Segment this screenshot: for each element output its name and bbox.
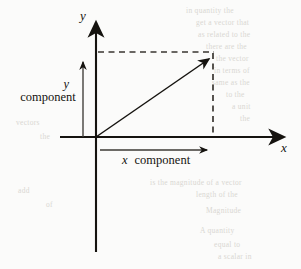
y-component-label: y component	[8, 78, 88, 104]
x-component-label-variable: x	[122, 153, 128, 167]
diagram-canvas	[0, 0, 301, 269]
resultant-vector-arrow	[96, 59, 209, 137]
x-component-label-word: component	[135, 153, 191, 167]
y-axis-label: y	[80, 9, 86, 23]
x-axis-label: x	[281, 141, 287, 155]
x-component-label: x component	[96, 154, 216, 167]
vector-components-figure: in quantity theget a vector thatas relat…	[0, 0, 301, 269]
y-component-label-word: component	[20, 90, 76, 104]
